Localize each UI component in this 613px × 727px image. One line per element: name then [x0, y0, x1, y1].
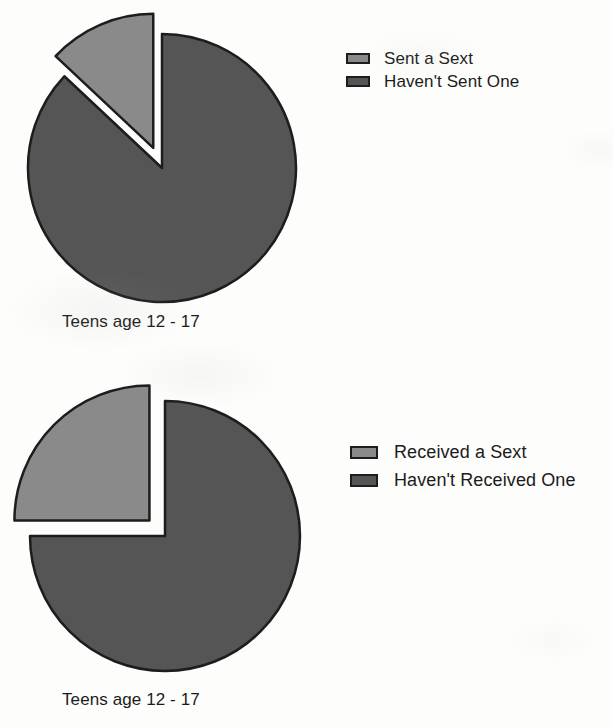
pie-chart-sent	[0, 0, 330, 310]
pie-caption-sent: Teens age 12 - 17	[62, 312, 200, 332]
page-canvas: Teens age 12 - 17 Sent a Sext Haven't Se…	[0, 0, 613, 727]
legend-label-received-a-sext: Received a Sext	[394, 442, 527, 463]
legend-swatch-dark-icon	[346, 76, 370, 87]
pie-svg-received	[0, 364, 330, 684]
pie-slice-received-a-sext[interactable]	[14, 385, 149, 520]
legend-swatch-light-icon	[346, 53, 370, 64]
chart-received-a-sext: Teens age 12 - 17 Received a Sext Haven'…	[0, 364, 613, 727]
legend-received: Received a Sext Haven't Received One	[350, 438, 576, 494]
legend-label-havent-sent-one: Haven't Sent One	[384, 72, 519, 92]
legend-label-sent-a-sext: Sent a Sext	[384, 49, 473, 69]
pie-caption-received: Teens age 12 - 17	[62, 690, 200, 710]
legend-item-havent-received-one[interactable]: Haven't Received One	[350, 466, 576, 494]
legend-swatch-dark-icon	[350, 474, 378, 487]
legend-label-havent-received-one: Haven't Received One	[394, 470, 576, 491]
pie-svg-sent	[0, 0, 330, 310]
legend-item-havent-sent-one[interactable]: Haven't Sent One	[346, 70, 519, 93]
legend-item-received-a-sext[interactable]: Received a Sext	[350, 438, 576, 466]
chart-sent-a-sext: Teens age 12 - 17 Sent a Sext Haven't Se…	[0, 0, 613, 364]
pie-chart-received	[0, 364, 330, 684]
legend-sent: Sent a Sext Haven't Sent One	[346, 47, 519, 93]
legend-swatch-light-icon	[350, 446, 378, 459]
legend-item-sent-a-sext[interactable]: Sent a Sext	[346, 47, 519, 70]
pie-slice-havent-sent-one[interactable]	[28, 34, 296, 302]
